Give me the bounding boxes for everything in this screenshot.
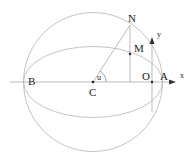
x-axis-arrow — [169, 80, 176, 85]
label-y: y — [157, 30, 161, 39]
point-M — [129, 53, 131, 55]
geometry-diagram: N M B C O A u x y — [0, 0, 196, 157]
point-O — [151, 81, 153, 83]
label-B: B — [28, 75, 35, 87]
label-O: O — [142, 70, 150, 82]
y-axis-arrow — [150, 37, 155, 44]
label-N: N — [128, 12, 136, 24]
label-A: A — [160, 70, 168, 82]
point-C — [92, 81, 95, 84]
label-x: x — [180, 71, 184, 80]
label-M: M — [134, 42, 144, 54]
label-C: C — [89, 86, 96, 98]
label-u: u — [97, 73, 101, 82]
